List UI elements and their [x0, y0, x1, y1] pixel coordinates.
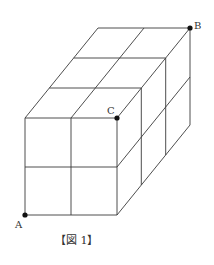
point-a: A: [14, 212, 28, 230]
front-face: [25, 118, 117, 215]
point-c-dot: [114, 115, 119, 120]
point-b: B: [187, 20, 201, 31]
point-c-label: C: [107, 105, 115, 116]
cuboid-diagram: A B C: [0, 0, 214, 265]
point-a-dot: [22, 212, 27, 217]
cuboid-figure: A B C 【図 1】: [0, 0, 214, 265]
right-face: [117, 28, 190, 215]
point-b-label: B: [194, 20, 201, 31]
figure-caption: 【図 1】: [55, 231, 135, 247]
point-a-label: A: [14, 219, 23, 230]
point-b-dot: [187, 25, 192, 30]
